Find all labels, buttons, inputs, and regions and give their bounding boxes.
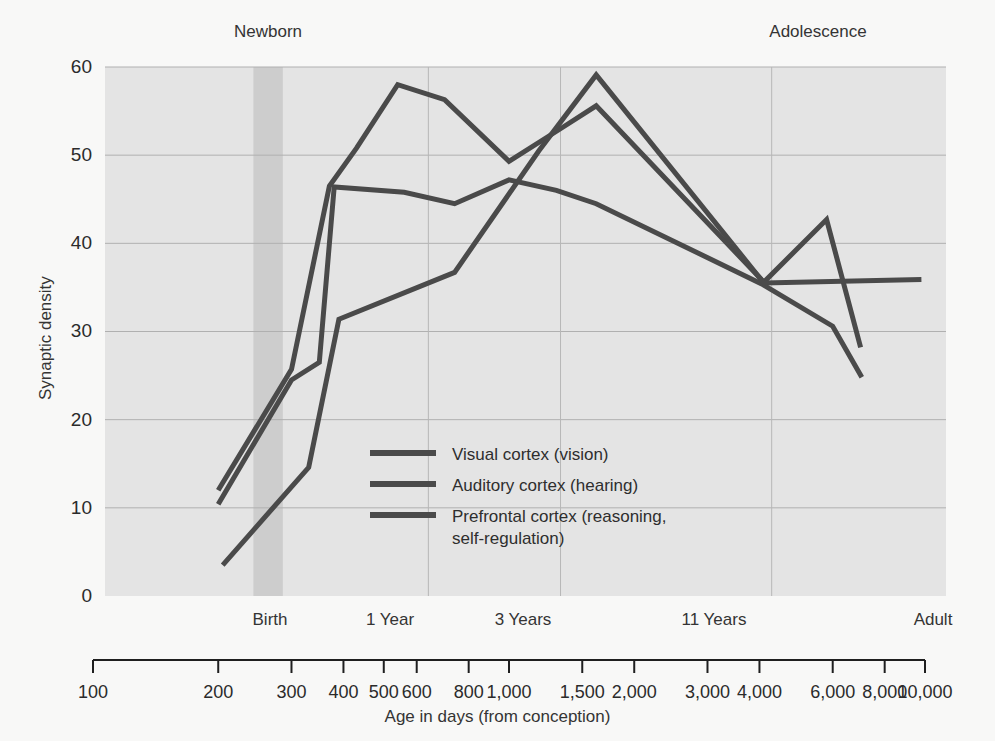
x-tick-label: 4,000	[737, 682, 782, 702]
legend-label-0: Visual cortex (vision)	[452, 445, 609, 464]
x-tick-label: 3,000	[685, 682, 730, 702]
legend-label-2: self-regulation)	[452, 529, 564, 548]
synaptic-density-chart: Newborn Adolescence Synaptic density 60 …	[0, 0, 995, 741]
legend-swatch-2	[370, 512, 436, 518]
x-tick-label: 6,000	[810, 682, 855, 702]
legend-label-1: Auditory cortex (hearing)	[452, 476, 638, 495]
stage-label-11-years: 11 Years	[656, 610, 772, 630]
stage-label-adult: Adult	[875, 610, 991, 630]
x-axis-title: Age in days (from conception)	[0, 707, 995, 727]
stage-label-1-year: 1 Year	[332, 610, 448, 630]
x-tick-label: 1,000	[486, 682, 531, 702]
legend-swatch-1	[370, 481, 436, 487]
x-tick-label: 500	[369, 682, 399, 702]
x-tick-label: 400	[328, 682, 358, 702]
stage-label-birth: Birth	[212, 610, 328, 630]
legend-swatch-0	[370, 450, 436, 456]
x-tick-label: 200	[203, 682, 233, 702]
stage-label-3-years: 3 Years	[465, 610, 581, 630]
x-tick-label: 300	[276, 682, 306, 702]
x-tick-label: 100	[78, 682, 108, 702]
x-tick-label: 600	[402, 682, 432, 702]
x-tick-label: 10,000	[897, 682, 952, 702]
x-tick-label: 800	[454, 682, 484, 702]
legend-label-2: Prefrontal cortex (reasoning,	[452, 507, 667, 526]
x-tick-label: 1,500	[560, 682, 605, 702]
x-tick-label: 2,000	[612, 682, 657, 702]
